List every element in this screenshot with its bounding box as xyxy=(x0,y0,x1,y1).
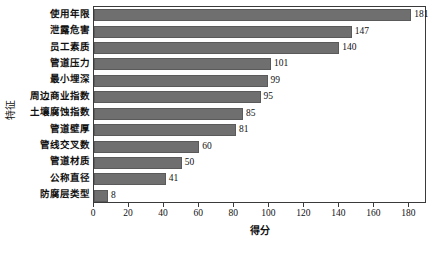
bar xyxy=(94,91,261,103)
bar xyxy=(94,26,352,38)
category-label: 周边商业指数 xyxy=(14,91,90,101)
bar-row: 147 xyxy=(94,26,425,38)
bar xyxy=(94,58,271,70)
bar-row: 41 xyxy=(94,173,425,185)
x-tick-label: 20 xyxy=(123,207,133,219)
x-tick-label: 40 xyxy=(158,207,168,219)
bar-value-label: 181 xyxy=(414,8,428,21)
bar-value-label: 140 xyxy=(342,41,356,54)
bar xyxy=(94,157,182,169)
bar-value-label: 81 xyxy=(239,123,249,136)
bar xyxy=(94,173,166,185)
category-label: 员工素质 xyxy=(14,42,90,52)
bar-row: 85 xyxy=(94,108,425,120)
bar-value-label: 99 xyxy=(271,74,281,87)
bar-row: 99 xyxy=(94,75,425,87)
category-label: 使用年限 xyxy=(14,9,90,19)
category-label-column: 使用年限泄露危害员工素质管道压力最小埋深周边商业指数土壤腐蚀指数管道壁厚管线交叉… xyxy=(14,6,90,203)
bar-value-label: 8 xyxy=(111,189,116,202)
bar xyxy=(94,124,236,136)
bar-value-label: 147 xyxy=(355,25,369,38)
category-label: 土壤腐蚀指数 xyxy=(14,107,90,117)
x-tick-label: 0 xyxy=(91,207,96,219)
category-label: 管线交叉数 xyxy=(14,140,90,150)
category-label: 管道壁厚 xyxy=(14,124,90,134)
bar xyxy=(94,108,243,120)
bar-row: 50 xyxy=(94,157,425,169)
bar-value-label: 41 xyxy=(169,172,179,185)
x-tick-label: 80 xyxy=(228,207,238,219)
bar-row: 95 xyxy=(94,91,425,103)
bar-row: 140 xyxy=(94,42,425,54)
bars-layer: 181147140101999585816050418 xyxy=(94,7,425,202)
bar-row: 60 xyxy=(94,141,425,153)
category-label: 最小埋深 xyxy=(14,74,90,84)
bar xyxy=(94,9,411,21)
category-label: 公称直径 xyxy=(14,173,90,183)
x-axis-title: 得分 xyxy=(93,225,426,237)
bar-row: 8 xyxy=(94,190,425,202)
bar-value-label: 95 xyxy=(264,90,274,103)
category-label: 泄露危害 xyxy=(14,25,90,35)
bar-value-label: 85 xyxy=(246,107,256,120)
bar-value-label: 60 xyxy=(202,140,212,153)
bar-value-label: 101 xyxy=(274,57,288,70)
bar-row: 81 xyxy=(94,124,425,136)
x-tick-label: 100 xyxy=(261,207,275,219)
bar xyxy=(94,190,108,202)
bar-chart: 特征 使用年限泄露危害员工素质管道压力最小埋深周边商业指数土壤腐蚀指数管道壁厚管… xyxy=(0,0,440,259)
x-tick-label: 60 xyxy=(193,207,203,219)
x-tick-label: 160 xyxy=(366,207,380,219)
x-axis-tick-labels: 020406080100120140160180 xyxy=(93,207,426,221)
bar-row: 181 xyxy=(94,9,425,21)
bar xyxy=(94,42,339,54)
plot-area: 181147140101999585816050418 xyxy=(93,6,426,203)
category-label: 防腐层类型 xyxy=(14,189,90,199)
bar-value-label: 50 xyxy=(185,156,195,169)
category-label: 管道材质 xyxy=(14,156,90,166)
x-tick-label: 120 xyxy=(296,207,310,219)
x-tick-label: 140 xyxy=(331,207,345,219)
category-label: 管道压力 xyxy=(14,58,90,68)
x-tick-label: 180 xyxy=(401,207,415,219)
bar-row: 101 xyxy=(94,58,425,70)
bar xyxy=(94,141,199,153)
bar xyxy=(94,75,268,87)
